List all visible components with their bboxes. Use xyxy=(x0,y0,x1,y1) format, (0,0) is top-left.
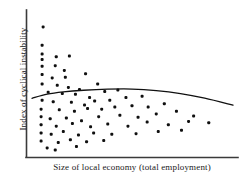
data-point xyxy=(85,140,88,143)
data-point xyxy=(64,76,67,79)
data-point xyxy=(126,125,129,128)
data-point xyxy=(92,131,95,134)
data-point xyxy=(192,114,195,117)
x-axis-label: Size of local economy (total employment) xyxy=(26,162,238,172)
data-point xyxy=(56,84,59,87)
data-point xyxy=(102,139,105,142)
data-point xyxy=(40,140,43,143)
data-point xyxy=(41,44,44,47)
data-point xyxy=(55,125,58,128)
data-point xyxy=(84,72,87,75)
data-point xyxy=(69,138,72,141)
data-point xyxy=(146,121,149,124)
data-point xyxy=(88,96,91,99)
data-point xyxy=(118,114,121,117)
data-point xyxy=(141,95,144,98)
data-point xyxy=(207,121,210,124)
data-point xyxy=(86,107,89,110)
data-point xyxy=(70,101,73,104)
data-point xyxy=(51,76,54,79)
data-point xyxy=(131,104,134,107)
plot-canvas xyxy=(0,0,245,179)
data-point xyxy=(54,148,57,151)
data-point xyxy=(50,133,53,136)
data-point xyxy=(74,93,77,96)
axis-lines xyxy=(26,10,238,158)
data-point xyxy=(77,134,80,137)
data-point xyxy=(41,53,44,56)
data-point xyxy=(113,106,116,109)
data-point xyxy=(67,86,70,89)
data-point xyxy=(41,58,44,61)
data-point xyxy=(41,65,44,68)
data-point xyxy=(106,123,109,126)
data-point xyxy=(71,122,74,125)
data-point xyxy=(97,115,100,118)
data-point xyxy=(40,131,43,134)
data-point xyxy=(42,25,45,28)
data-point xyxy=(40,115,43,118)
data-point xyxy=(96,83,99,86)
data-point xyxy=(180,129,183,132)
data-point xyxy=(108,99,111,102)
data-point xyxy=(80,119,83,122)
data-point xyxy=(57,141,60,144)
data-point xyxy=(68,55,71,58)
data-point xyxy=(41,73,44,76)
data-point xyxy=(155,112,158,115)
data-point xyxy=(40,123,43,126)
data-point xyxy=(55,55,58,58)
data-point xyxy=(103,90,106,93)
scatter-plot-figure: Size of local economy (total employment)… xyxy=(0,0,245,179)
data-point xyxy=(157,130,160,133)
data-point xyxy=(147,106,150,109)
data-point xyxy=(52,100,55,103)
data-point xyxy=(65,117,68,120)
trend-line xyxy=(32,89,233,105)
data-point xyxy=(83,104,86,107)
data-point xyxy=(175,110,178,113)
data-point xyxy=(135,132,138,135)
data-point xyxy=(124,96,127,99)
data-point xyxy=(137,116,140,119)
data-point xyxy=(187,120,190,123)
y-axis-label: Index of cyclical instability xyxy=(18,9,28,149)
data-point xyxy=(63,69,66,72)
data-point xyxy=(163,102,166,105)
data-point xyxy=(46,146,49,149)
data-point xyxy=(75,145,78,148)
data-point xyxy=(93,100,96,103)
data-point xyxy=(62,130,65,133)
data-point xyxy=(167,123,170,126)
data-point xyxy=(58,108,61,111)
data-point xyxy=(40,108,43,111)
data-point xyxy=(110,133,113,136)
data-point xyxy=(54,64,57,67)
data-point xyxy=(89,125,92,128)
data-point xyxy=(41,83,44,86)
data-point xyxy=(41,99,44,102)
data-point xyxy=(100,108,103,111)
data-point xyxy=(49,117,52,120)
data-point xyxy=(73,110,76,113)
